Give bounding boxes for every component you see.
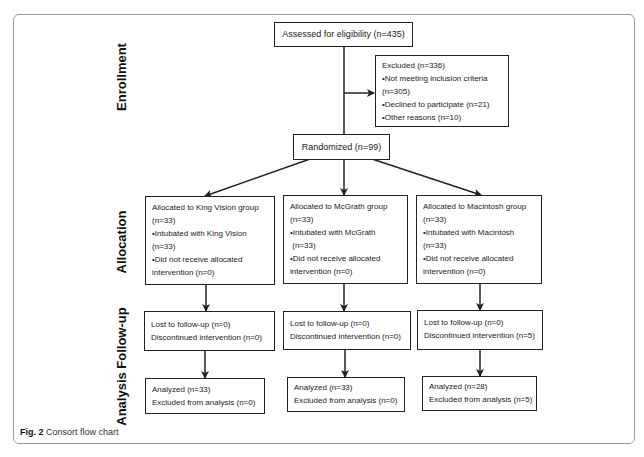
follow-up-box-mcgrath: Lost to follow-up (n=0) Discontinued int… [283,311,411,350]
excluded-box: Excluded (n=336) •Not meeting inclusion … [375,55,509,127]
follow-up-box-macintosh: Lost to follow-up (n=0) Discontinued int… [417,310,543,350]
excluded-line: (n=305) [382,85,502,98]
allocation-line: •Intubated with Macintosh [423,226,535,239]
analysis-line: Excluded from analysis (n=0) [294,394,398,407]
randomized-box: Randomized (n=99) [293,134,390,160]
allocation-line: •Intubated with McGrath [290,226,401,239]
allocation-line: Allocated to King Vision group [152,201,268,214]
figure-caption: Fig. 2 Consort flow chart [20,427,119,437]
figure-caption-label: Fig. 2 [20,427,44,437]
excluded-line: Excluded (n=336) [382,59,502,72]
allocation-line: (n=33) [152,240,268,253]
excluded-line: •Not meeting inclusion criteria [382,72,502,85]
follow-up-line: Discontinued intervention (n=0) [290,330,404,343]
randomized-text: Randomized (n=99) [302,141,381,154]
excluded-line: •Declined to participate (n=21) [382,98,502,111]
allocation-line: (n=33) [152,214,268,227]
figure-caption-text: Consort flow chart [46,427,119,437]
analysis-line: Excluded from analysis (n=0) [152,396,258,409]
follow-up-line: Discontinued intervention (n=0) [151,331,268,344]
allocation-line: (n=33) [423,213,535,226]
allocation-line: (n=33) [423,239,535,252]
follow-up-line: Lost to follow-up (n=0) [424,316,536,329]
analysis-box-king-vision: Analyzed (n=33) Excluded from analysis (… [145,378,265,414]
allocation-line: •Did not receive allocated [423,252,535,265]
allocation-box-mcgrath: Allocated to McGrath group (n=33) •Intub… [283,195,408,284]
allocation-line: Allocated to Macintosh group [423,200,535,213]
analysis-box-macintosh: Analyzed (n=28) Excluded from analysis (… [422,376,537,411]
follow-up-line: Lost to follow-up (n=0) [151,318,268,331]
analysis-line: Analyzed (n=33) [152,383,258,396]
assessed-text: Assessed for eligibility (n=435) [282,28,404,41]
analysis-line: Excluded from analysis (n=5) [429,393,530,406]
allocation-line: intervention (n=0) [423,265,535,278]
excluded-line: •Other reasons (n=10) [382,111,502,124]
allocation-line: Allocated to McGrath group [290,200,401,213]
allocation-box-macintosh: Allocated to Macintosh group (n=33) •Int… [416,195,542,284]
allocation-line: •Intubated with King Vision [152,227,268,240]
follow-up-line: Lost to follow-up (n=0) [290,317,404,330]
analysis-box-mcgrath: Analyzed (n=33) Excluded from analysis (… [287,377,405,412]
allocation-box-king-vision: Allocated to King Vision group (n=33) •I… [145,196,275,285]
allocation-line: intervention (n=0) [290,265,401,278]
follow-up-line: Discontinued intervention (n=5) [424,329,536,342]
allocation-line: •Did not receive allocated [290,252,401,265]
assessed-box: Assessed for eligibility (n=435) [274,22,413,47]
allocation-line: intervention (n=0) [152,266,268,279]
allocation-line: (n=33) [290,239,401,252]
allocation-line: (n=33) [290,213,401,226]
allocation-line: •Did not receive allocated [152,253,268,266]
stage-label-allocation: Allocation [114,202,130,282]
analysis-line: Analyzed (n=33) [294,381,398,394]
analysis-line: Analyzed (n=28) [429,380,530,393]
follow-up-box-king-vision: Lost to follow-up (n=0) Discontinued int… [144,311,275,351]
stage-label-enrollment: Enrollment [114,37,130,117]
